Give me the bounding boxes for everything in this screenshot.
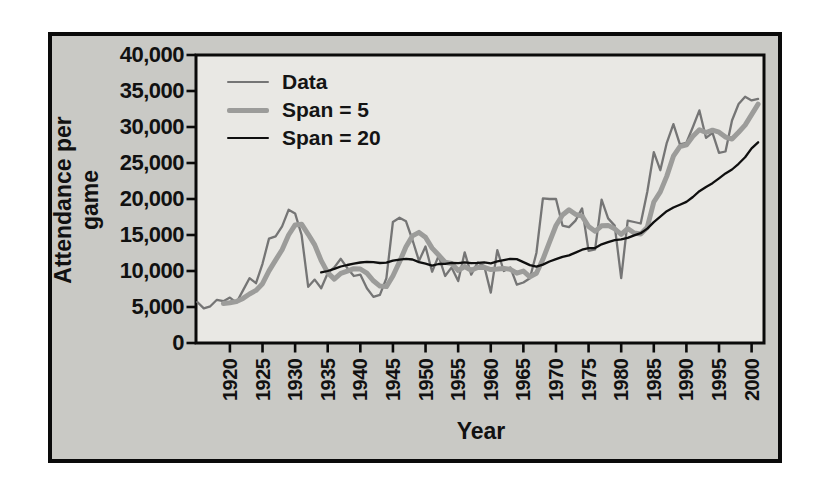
x-axis-title: Year <box>436 418 526 445</box>
x-tick-label: 1980 <box>610 351 632 401</box>
legend-swatch-data <box>227 81 269 83</box>
legend-swatch-span-20 <box>227 137 269 139</box>
legend-swatch-span-5 <box>227 108 269 113</box>
y-tick-label: 0 <box>74 330 184 356</box>
y-tick-label: 40,000 <box>74 42 184 68</box>
x-tick-label: 1990 <box>675 351 697 401</box>
x-tick-label: 1920 <box>219 351 241 401</box>
legend-item: Data <box>227 68 381 96</box>
y-tick-label: 25,000 <box>74 150 184 176</box>
y-tick-label: 30,000 <box>74 114 184 140</box>
x-tick-label: 2000 <box>741 351 763 401</box>
x-tick-label: 1950 <box>415 351 437 401</box>
legend-label: Span = 5 <box>282 98 369 122</box>
y-tick-label: 10,000 <box>74 258 184 284</box>
x-tick-label: 1955 <box>447 351 469 401</box>
x-tick-label: 1965 <box>512 351 534 401</box>
y-tick-label: 5,000 <box>74 294 184 320</box>
x-tick-label: 1960 <box>480 351 502 401</box>
legend: DataSpan = 5Span = 20 <box>227 68 381 152</box>
x-tick-label: 1945 <box>382 351 404 401</box>
x-tick-label: 1975 <box>578 351 600 401</box>
y-tick-label: 15,000 <box>74 222 184 248</box>
x-tick-label: 1995 <box>708 351 730 401</box>
legend-item: Span = 5 <box>227 96 381 124</box>
legend-item: Span = 20 <box>227 124 381 152</box>
x-tick-label: 1970 <box>545 351 567 401</box>
legend-label: Span = 20 <box>282 126 381 150</box>
x-tick-label: 1940 <box>349 351 371 401</box>
y-tick-label: 35,000 <box>74 78 184 104</box>
x-tick-label: 1935 <box>317 351 339 401</box>
legend-label: Data <box>282 70 328 94</box>
x-tick-label: 1925 <box>252 351 274 401</box>
y-tick-label: 20,000 <box>74 186 184 212</box>
x-tick-label: 1930 <box>284 351 306 401</box>
page: Attendance per game Year DataSpan = 5Spa… <box>0 0 822 482</box>
x-tick-label: 1985 <box>643 351 665 401</box>
